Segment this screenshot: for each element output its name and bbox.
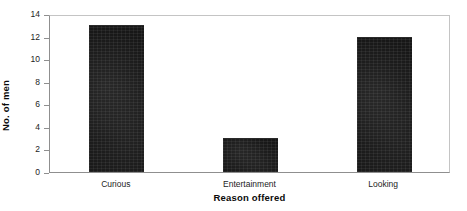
plot-area bbox=[49, 15, 450, 173]
y-axis-tick-label: 6 bbox=[35, 99, 40, 110]
y-axis-tick-label: 10 bbox=[31, 54, 40, 65]
y-axis-tick-label: 12 bbox=[31, 32, 40, 43]
y-axis-tick-label: 0 bbox=[35, 167, 40, 178]
y-axis-title: No. of men bbox=[10, 0, 32, 211]
y-axis-tick-label: 14 bbox=[31, 9, 40, 20]
y-axis-title-label: No. of men bbox=[0, 80, 11, 131]
x-axis-title: Reason offered bbox=[49, 192, 450, 203]
y-axis-tick-mark bbox=[44, 173, 49, 174]
y-axis-tick-label: 8 bbox=[35, 77, 40, 88]
x-axis-tick-label: Entertainment bbox=[190, 179, 310, 190]
bar-chart: No. of men 02468101214 CuriousEntertainm… bbox=[0, 0, 467, 211]
x-axis-tick-label: Looking bbox=[323, 179, 443, 190]
bar bbox=[223, 138, 278, 172]
bar bbox=[89, 25, 144, 172]
bar bbox=[357, 37, 412, 172]
y-axis-tick-label: 4 bbox=[35, 122, 40, 133]
x-axis-tick-label: Curious bbox=[56, 179, 176, 190]
y-axis-tick-label: 2 bbox=[35, 144, 40, 155]
